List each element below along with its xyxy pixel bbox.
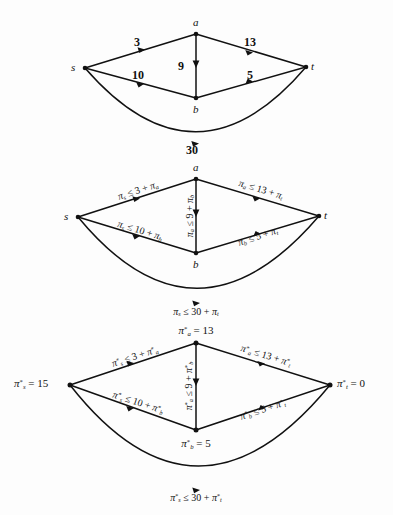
node-potential-a: π*a = 13 xyxy=(178,325,213,338)
node-dot-a xyxy=(194,177,199,182)
node-dot-s xyxy=(83,66,88,71)
node-potential-s-value: = 15 xyxy=(28,377,48,389)
figure-weighted-graph: s a b t 3 13 10 5 9 30 xyxy=(0,0,393,160)
node-dot-b xyxy=(194,428,199,433)
edge-weight-b-t: 5 xyxy=(247,69,253,81)
constraint-star-a-b: π*a ≤ 9 + π*b xyxy=(184,362,195,411)
node-potential-t: π*t = 0 xyxy=(337,378,365,391)
node-dot-s xyxy=(76,215,81,220)
edge-weight-a-t: 13 xyxy=(244,36,256,48)
edge-weight-s-t: 30 xyxy=(186,144,198,156)
node-potential-t-value: = 0 xyxy=(351,377,365,389)
node-dot-a xyxy=(194,32,199,37)
node-dot-a xyxy=(194,341,199,346)
node-potential-b-value: = 5 xyxy=(196,437,210,449)
node-label-t: t xyxy=(324,210,327,221)
node-dot-t xyxy=(317,214,322,219)
node-label-a: a xyxy=(193,17,199,28)
edge-weight-a-b: 9 xyxy=(178,60,184,72)
constraint-s-t: πs ≤ 30 + πt xyxy=(173,307,218,318)
figure-3-svg xyxy=(0,325,393,515)
constraint-a-b: πa ≤ 9 + πb xyxy=(185,195,196,237)
edge-s-t-arc xyxy=(70,385,330,466)
arrowhead-a-t xyxy=(257,361,265,367)
node-label-s: s xyxy=(64,211,68,222)
node-dot-b xyxy=(194,251,199,256)
node-dot-s xyxy=(68,383,73,388)
node-potential-b: π*b = 5 xyxy=(181,438,211,451)
node-label-b: b xyxy=(193,259,199,270)
arrowhead-a-b xyxy=(193,60,200,68)
figure-page: s a b t 3 13 10 5 9 30 xyxy=(0,0,393,515)
node-dot-t xyxy=(328,383,333,388)
constraint-star-s-t: π*s ≤ 30 + π*t xyxy=(170,493,222,504)
node-label-b: b xyxy=(193,104,199,115)
figure-2-svg xyxy=(0,160,393,325)
edge-weight-s-a: 3 xyxy=(134,36,140,48)
node-potential-s: π*s = 15 xyxy=(14,378,48,391)
node-dot-b xyxy=(194,96,199,101)
node-potential-a-value: = 13 xyxy=(194,324,214,336)
edge-weight-s-b: 10 xyxy=(132,69,144,81)
node-label-a: a xyxy=(193,162,199,173)
figure-optimal-potentials: π*s = 15 π*a = 13 π*b = 5 π*t = 0 π*s ≤ … xyxy=(0,325,393,515)
figure-dual-constraints: s a b t πs ≤ 3 + πa πa ≤ 13 + πt πs ≤ 10… xyxy=(0,160,393,325)
node-dot-t xyxy=(304,65,309,70)
node-label-t: t xyxy=(311,61,314,72)
edge-s-a xyxy=(70,343,196,385)
node-label-s: s xyxy=(71,62,75,73)
